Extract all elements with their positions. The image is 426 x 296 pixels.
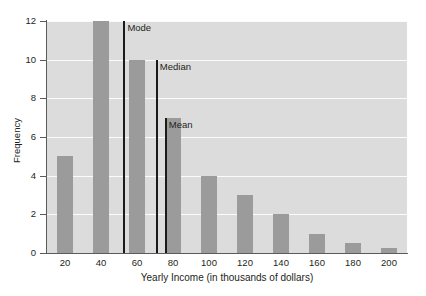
y-tick <box>40 176 47 177</box>
marker-label-median: Median <box>160 61 191 72</box>
x-tick-label: 20 <box>50 257 80 269</box>
plot-area <box>47 21 407 253</box>
marker-label-mean: Mean <box>169 119 193 130</box>
bar <box>273 214 289 253</box>
x-axis-title: Yearly Income (in thousands of dollars) <box>47 272 407 283</box>
bar <box>165 118 181 253</box>
bar <box>129 60 145 253</box>
x-tick-label: 60 <box>122 257 152 269</box>
y-tick-label: 4 <box>22 171 36 181</box>
y-tick-label: 2 <box>22 209 36 219</box>
bar <box>57 156 73 253</box>
y-tick <box>40 98 47 99</box>
x-axis-line <box>46 253 408 254</box>
bar <box>237 195 253 253</box>
y-tick <box>40 21 47 22</box>
bar <box>201 176 217 253</box>
marker-line-median <box>156 60 158 253</box>
marker-line-mean <box>165 118 167 253</box>
y-tick <box>40 214 47 215</box>
x-tick-label: 40 <box>86 257 116 269</box>
y-tick <box>40 253 47 254</box>
x-tick-label: 160 <box>302 257 332 269</box>
y-tick-label: 12 <box>22 16 36 26</box>
marker-label-mode: Mode <box>127 22 151 33</box>
y-tick-label: 8 <box>22 93 36 103</box>
y-tick-label: 10 <box>22 55 36 65</box>
y-tick-label: 0 <box>22 248 36 258</box>
y-axis-title: Frequency <box>11 106 22 176</box>
bar <box>345 243 361 253</box>
x-tick-label: 120 <box>230 257 260 269</box>
y-tick-label: 6 <box>22 132 36 142</box>
x-tick-label: 140 <box>266 257 296 269</box>
x-tick-label: 200 <box>374 257 404 269</box>
y-tick <box>40 137 47 138</box>
x-tick-label: 80 <box>158 257 188 269</box>
x-tick-label: 100 <box>194 257 224 269</box>
histogram-figure: 121086420 20406080100120140160180200 Mod… <box>0 0 426 296</box>
y-tick <box>40 60 47 61</box>
x-tick-label: 180 <box>338 257 368 269</box>
bar <box>93 21 109 253</box>
marker-line-mode <box>123 21 125 253</box>
bar <box>309 234 325 253</box>
